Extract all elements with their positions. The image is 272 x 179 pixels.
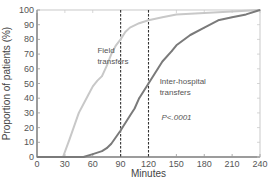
data-point: [171, 51, 172, 52]
y-tick-label: 90: [24, 20, 34, 30]
data-point: [204, 12, 205, 13]
x-tick-label: 60: [88, 159, 98, 169]
y-tick-label: 20: [24, 123, 34, 133]
data-point: [139, 23, 140, 24]
data-point: [218, 20, 219, 21]
y-tick-label: 40: [24, 93, 34, 103]
y-tick-label: 50: [24, 79, 34, 89]
y-tick-label: 80: [24, 34, 34, 44]
data-point: [111, 143, 112, 144]
data-point: [162, 61, 163, 62]
x-tick-label: 240: [252, 159, 267, 169]
data-point: [120, 130, 121, 131]
data-point: [157, 68, 158, 69]
annotation: Inter-hospital: [160, 77, 206, 86]
data-point: [92, 86, 93, 87]
y-tick-label: 30: [24, 108, 34, 118]
x-tick-label: 150: [169, 159, 184, 169]
data-point: [134, 108, 135, 109]
annotations: FieldtransfersInter-hospitaltransfersP<.…: [97, 46, 206, 123]
data-point: [129, 27, 130, 28]
cumulative-transfer-chart: 0306090120150180210240010203040506070809…: [0, 0, 272, 179]
annotation: Field: [97, 46, 114, 55]
y-axis-label: Proportion of patients (%): [1, 27, 12, 140]
y-tick-label: 70: [24, 49, 34, 59]
data-point: [139, 98, 140, 99]
data-point: [232, 17, 233, 18]
data-point: [88, 95, 89, 96]
data-point: [106, 148, 107, 149]
data-point: [92, 153, 93, 154]
data-point: [83, 156, 84, 157]
data-point: [101, 151, 102, 152]
data-point: [204, 27, 205, 28]
y-tick-label: 100: [19, 5, 34, 15]
axes: 0306090120150180210240010203040506070809…: [19, 5, 268, 169]
x-tick-label: 0: [34, 159, 39, 169]
data-point: [129, 115, 130, 116]
data-point: [97, 80, 98, 81]
annotation: transfers: [97, 57, 128, 66]
y-tick-label: 60: [24, 64, 34, 74]
data-point: [259, 9, 260, 10]
x-tick-label: 90: [116, 159, 126, 169]
data-point: [148, 20, 149, 21]
data-point: [176, 45, 177, 46]
data-point: [120, 39, 121, 40]
data-point: [232, 11, 233, 12]
x-tick-label: 30: [60, 159, 70, 169]
data-point: [190, 34, 191, 35]
data-point: [101, 76, 102, 77]
y-tick-label: 0: [29, 152, 34, 162]
data-point: [115, 45, 116, 46]
data-point: [162, 17, 163, 18]
y-tick-label: 10: [24, 137, 34, 147]
data-point: [148, 83, 149, 84]
data-point: [245, 14, 246, 15]
annotation: P<.0001: [162, 113, 192, 122]
data-point: [36, 156, 37, 157]
x-axis-label: Minutes: [131, 168, 166, 179]
annotation: transfers: [160, 88, 191, 97]
x-tick-label: 180: [197, 159, 212, 169]
x-tick-label: 210: [225, 159, 240, 169]
data-point: [125, 31, 126, 32]
data-point: [176, 14, 177, 15]
data-point: [78, 112, 79, 113]
data-point: [69, 139, 70, 140]
